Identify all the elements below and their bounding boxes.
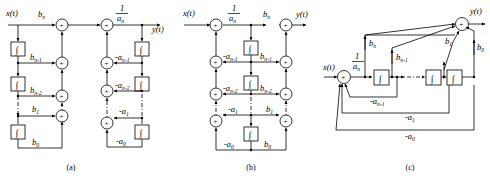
plus-icon: + bbox=[105, 60, 109, 68]
label-a-a0: -a0 bbox=[116, 136, 126, 147]
label-c-b0: b0 bbox=[477, 42, 484, 53]
plus-icon: + bbox=[60, 60, 64, 68]
label-c-bn1: bn-1 bbox=[396, 52, 408, 63]
wire-c-fb-a0 bbox=[336, 84, 474, 130]
label-b-gain-num: 1 bbox=[232, 3, 236, 13]
integrator-c1 bbox=[374, 70, 389, 85]
wire-c-bn1-path bbox=[392, 26, 455, 77]
integrator-a-r2 bbox=[135, 77, 149, 91]
integrator-b3 bbox=[244, 127, 258, 141]
label-a-gain-den: an bbox=[117, 13, 124, 24]
label-c-an1: -an-1 bbox=[370, 96, 385, 107]
label-b-a0: -a0 bbox=[224, 139, 234, 150]
label-a-input: x(t) bbox=[5, 8, 18, 18]
wire-c-b0-to-adder bbox=[466, 27, 474, 31]
plus-icon: + bbox=[214, 118, 218, 126]
label-b-bn2: bn-2 bbox=[260, 83, 272, 94]
integrator-a-l2 bbox=[11, 77, 25, 91]
plus-icon: + bbox=[284, 22, 288, 30]
plus-icon: + bbox=[105, 120, 109, 128]
label-c-gain-den: an bbox=[353, 61, 360, 72]
plus-icon: + bbox=[60, 93, 64, 101]
plus-icon: + bbox=[284, 59, 288, 67]
junction-c-i1 bbox=[391, 76, 393, 78]
caption-a: (a) bbox=[67, 163, 76, 172]
integrator-c3 bbox=[447, 70, 462, 85]
plus-icon: + bbox=[105, 22, 109, 30]
plus-icon: + bbox=[341, 74, 345, 82]
label-a-an1: -an-1 bbox=[115, 52, 130, 63]
integrator-c2 bbox=[426, 70, 441, 85]
plus-icon: + bbox=[284, 91, 288, 99]
label-b-an2: -an-2 bbox=[223, 83, 238, 94]
label-a-b1: b1 bbox=[32, 104, 39, 115]
plus-icon: + bbox=[459, 21, 463, 29]
junction-c-i2 bbox=[443, 76, 445, 78]
plus-icon: + bbox=[105, 88, 109, 96]
label-b-output: y(t) bbox=[295, 9, 308, 19]
label-a-output: y(t) bbox=[151, 24, 164, 34]
label-a-an2: -an-2 bbox=[115, 80, 130, 91]
label-b-an1: -an-1 bbox=[223, 51, 238, 62]
label-b-input: x(t) bbox=[182, 8, 195, 18]
integrator-a-r1 bbox=[135, 42, 149, 56]
caption-b: (b) bbox=[246, 163, 256, 172]
label-c-b1: b1 bbox=[445, 36, 452, 47]
integrator-b1 bbox=[244, 41, 258, 55]
label-b-bn: bn bbox=[263, 9, 270, 20]
label-c-a0: -a0 bbox=[405, 131, 415, 142]
panel-b-diagram: ∫ ∫ ∫ + + + + + bbox=[178, 0, 323, 176]
plus-icon: + bbox=[284, 118, 288, 126]
label-a-b0: b0 bbox=[32, 137, 39, 148]
label-a-a1: -a1 bbox=[119, 106, 129, 117]
plus-icon: + bbox=[214, 91, 218, 99]
integrator-b2 bbox=[244, 76, 258, 90]
label-b-b1: b1 bbox=[266, 104, 273, 115]
label-c-a1: -a1 bbox=[405, 112, 415, 123]
label-c-gain-num: 1 bbox=[355, 51, 359, 61]
label-c-output: y(t) bbox=[469, 6, 482, 16]
panel-c-diagram: + + ∫ ∫ ∫ bbox=[322, 0, 490, 176]
figure-canvas: ∫ ∫ ∫ + + + + + + + + bbox=[0, 0, 490, 176]
label-b-b0: b0 bbox=[264, 139, 271, 150]
wire-c-bn-to-adder bbox=[365, 24, 455, 35]
label-a-gain-num: 1 bbox=[120, 3, 124, 13]
integrator-a-l1 bbox=[11, 42, 25, 56]
integrator-a-l3 bbox=[11, 125, 25, 139]
integrator-a-r3 bbox=[135, 125, 149, 139]
label-b-bn1: bn-1 bbox=[260, 51, 272, 62]
label-a-bn: bn bbox=[38, 9, 45, 20]
plus-icon: + bbox=[214, 22, 218, 30]
plus-icon: + bbox=[60, 113, 64, 121]
label-c-input: x(t) bbox=[322, 62, 335, 72]
label-c-bn: bn bbox=[369, 38, 376, 49]
wire-c-b1-to-adder bbox=[453, 31, 459, 42]
label-b-gain-den: an bbox=[229, 13, 236, 24]
junction-c-fb1 bbox=[396, 76, 398, 78]
label-b-a1: -a1 bbox=[228, 104, 238, 115]
caption-c: (c) bbox=[406, 163, 415, 172]
label-a-bn1: bn-1 bbox=[30, 52, 42, 63]
wire-c-fb-a1 bbox=[342, 84, 449, 113]
plus-icon: + bbox=[214, 59, 218, 67]
panel-a-diagram: ∫ ∫ ∫ + + + + + + + + bbox=[0, 0, 175, 176]
label-a-bn2: bn-2 bbox=[30, 85, 42, 96]
plus-icon: + bbox=[60, 22, 64, 30]
